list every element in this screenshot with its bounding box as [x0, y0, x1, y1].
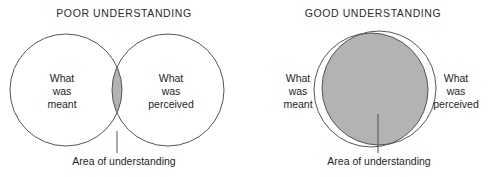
label-what-was-perceived-good: What was perceived	[421, 72, 491, 112]
label-line: was	[268, 85, 328, 98]
label-line: What	[26, 72, 98, 85]
label-area-of-understanding-poor: Area of understanding	[24, 155, 224, 168]
label-what-was-meant-good: What was meant	[268, 72, 328, 112]
label-line: meant	[268, 98, 328, 111]
label-what-was-meant-poor: What was meant	[26, 72, 98, 112]
panel-poor-understanding: POOR UNDERSTANDING What was meant	[0, 0, 248, 177]
panel-good-understanding: GOOD UNDERSTANDING What was meant	[249, 0, 497, 177]
label-area-of-understanding-good: Area of understanding	[289, 155, 469, 168]
label-line: meant	[26, 98, 98, 111]
overlap-region-good	[322, 31, 436, 145]
label-line: perceived	[128, 98, 214, 111]
label-line: What	[268, 72, 328, 85]
label-line: What	[421, 72, 491, 85]
label-what-was-perceived-poor: What was perceived	[128, 72, 214, 112]
label-line: perceived	[421, 98, 491, 111]
label-line: What	[128, 72, 214, 85]
label-line: was	[128, 85, 214, 98]
venn-diagram-figure: POOR UNDERSTANDING What was meant	[0, 0, 497, 177]
label-line: was	[421, 85, 491, 98]
label-line: was	[26, 85, 98, 98]
